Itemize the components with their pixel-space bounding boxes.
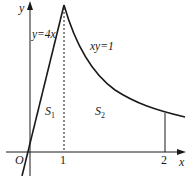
diagram-canvas: y x O 1 2 y=4x xy=1 S1 S2 (0, 0, 192, 176)
origin-label: O (15, 153, 24, 167)
line-label: y=4x (31, 28, 57, 41)
region-s1-label: S1 (45, 104, 55, 120)
hyperbola-xy-equals-1 (64, 5, 185, 117)
x-axis-label: x (178, 155, 185, 169)
region-s2-label: S2 (95, 104, 105, 120)
y-axis-arrow-icon (27, 1, 33, 10)
x-tick-1: 1 (60, 153, 66, 167)
hyperbola-label: xy=1 (89, 40, 114, 53)
x-tick-2: 2 (161, 153, 167, 167)
y-axis-label: y (18, 1, 25, 15)
